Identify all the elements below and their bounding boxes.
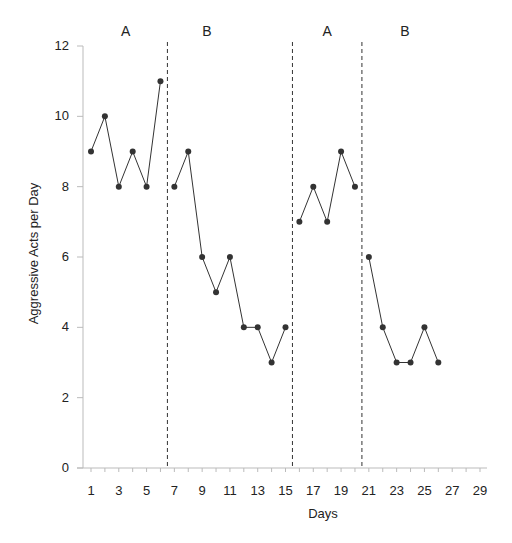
data-point — [366, 254, 372, 260]
data-point — [296, 219, 302, 225]
x-tick-label: 21 — [357, 483, 381, 498]
chart-plot-area — [0, 0, 512, 543]
data-point — [116, 184, 122, 190]
x-tick-label: 15 — [274, 483, 298, 498]
data-point — [338, 149, 344, 155]
x-tick-label: 9 — [190, 483, 214, 498]
data-point — [283, 324, 289, 330]
data-point — [421, 324, 427, 330]
y-tick-label: 2 — [39, 390, 69, 405]
phase-label: B — [390, 23, 420, 39]
y-tick-label: 6 — [39, 249, 69, 264]
x-tick-label: 3 — [107, 483, 131, 498]
phase-label: A — [312, 23, 342, 39]
data-point — [213, 289, 219, 295]
data-point — [352, 184, 358, 190]
phase-label: B — [192, 23, 222, 39]
data-point — [435, 360, 441, 366]
data-point — [408, 360, 414, 366]
x-tick-label: 29 — [468, 483, 492, 498]
y-tick-label: 10 — [39, 108, 69, 123]
data-point — [199, 254, 205, 260]
data-point — [394, 360, 400, 366]
data-point — [255, 324, 261, 330]
data-point — [380, 324, 386, 330]
x-tick-label: 23 — [385, 483, 409, 498]
x-tick-label: 1 — [79, 483, 103, 498]
data-line — [369, 257, 438, 363]
data-point — [88, 149, 94, 155]
data-point — [185, 149, 191, 155]
y-tick-label: 4 — [39, 319, 69, 334]
x-tick-label: 17 — [301, 483, 325, 498]
y-tick-label: 0 — [39, 460, 69, 475]
x-tick-label: 7 — [162, 483, 186, 498]
x-tick-label: 13 — [246, 483, 270, 498]
data-point — [171, 184, 177, 190]
data-line — [91, 81, 160, 187]
x-tick-label: 11 — [218, 483, 242, 498]
y-axis-title: Aggressive Acts per Day — [26, 154, 41, 354]
y-tick-label: 8 — [39, 179, 69, 194]
data-point — [157, 78, 163, 84]
data-point — [144, 184, 150, 190]
data-point — [310, 184, 316, 190]
x-tick-label: 27 — [440, 483, 464, 498]
data-point — [324, 219, 330, 225]
x-tick-label: 25 — [412, 483, 436, 498]
x-tick-label: 5 — [135, 483, 159, 498]
data-point — [130, 149, 136, 155]
y-tick-label: 12 — [39, 38, 69, 53]
data-point — [241, 324, 247, 330]
data-point — [227, 254, 233, 260]
phase-label: A — [111, 23, 141, 39]
data-point — [269, 360, 275, 366]
x-tick-label: 19 — [329, 483, 353, 498]
data-point — [102, 113, 108, 119]
x-axis-title: Days — [293, 506, 353, 521]
data-line — [299, 152, 355, 222]
